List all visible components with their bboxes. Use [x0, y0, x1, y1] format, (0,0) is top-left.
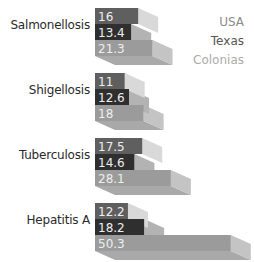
category-label: Shigellosis — [29, 83, 90, 97]
legend-item-texas: Texas — [193, 32, 244, 51]
bar-value-label: 28.1 — [98, 172, 125, 186]
bar-value-label: 13.4 — [98, 26, 125, 40]
bar-value-label: 12.2 — [98, 205, 125, 219]
bar-value-label: 14.6 — [98, 156, 125, 170]
legend: USA Texas Colonias — [193, 13, 244, 70]
bar-bottom-face — [95, 251, 251, 260]
category-label: Salmonellosis — [10, 18, 90, 32]
bar-value-label: 18 — [98, 107, 113, 121]
bar-value-label: 50.3 — [98, 237, 125, 251]
bar-value-label: 12.6 — [98, 91, 125, 105]
category-label: Hepatitis A — [26, 213, 90, 227]
bar-value-label: 11 — [98, 75, 113, 89]
bar-value-label: 21.3 — [98, 42, 125, 56]
bar-value-label: 17.5 — [98, 140, 125, 154]
bar-value-label: 16 — [98, 10, 113, 24]
legend-item-usa: USA — [193, 13, 244, 32]
legend-item-colonias: Colonias — [193, 51, 244, 70]
bar-value-label: 18.2 — [98, 221, 125, 235]
category-label: Tuberculosis — [19, 148, 90, 162]
